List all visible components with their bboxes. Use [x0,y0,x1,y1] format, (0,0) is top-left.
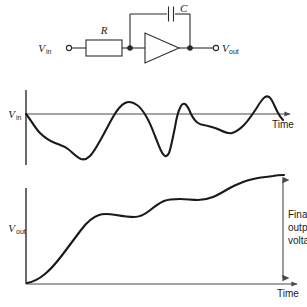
input-plot-x-label: Time [272,119,294,130]
resistor-body [86,40,122,56]
integrator-figure: V in V out R C V in Time [0,0,307,307]
resistor-label: R [100,24,108,36]
input-waveform-plot [26,90,290,165]
circuit-vout-sublabel: out [229,48,239,55]
output-terminal-node [213,45,218,50]
figure-canvas: V in V out R C V in Time [0,0,307,307]
input-signal-trace [26,96,283,159]
capacitor-label: C [180,2,188,14]
final-voltage-annotation-line2: output [288,222,307,233]
input-terminal-node [66,45,71,50]
output-plot-x-label: Time [277,288,299,299]
output-signal-trace [27,175,284,283]
final-voltage-annotation-line3: voltage [288,235,307,246]
final-voltage-annotation-line1: Final [288,209,307,220]
amplifier-triangle [145,33,179,63]
input-plot-y-sublabel: in [16,114,22,121]
output-plot-y-sublabel: out [16,228,26,235]
circuit-diagram [66,7,218,64]
circuit-vin-sublabel: in [46,48,52,55]
output-waveform-plot [26,175,297,284]
